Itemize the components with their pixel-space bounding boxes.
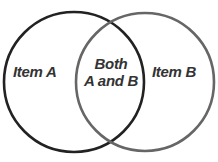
- label-item-a: Item A: [13, 63, 57, 80]
- label-item-b: Item B: [152, 63, 196, 80]
- label-intersection-line1: Both: [84, 55, 138, 72]
- label-intersection-line2: A and B: [84, 72, 138, 89]
- label-intersection: Both A and B: [84, 55, 138, 89]
